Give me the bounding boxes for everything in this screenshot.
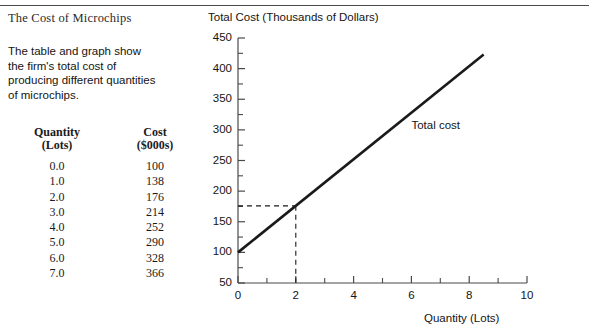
cell-cost: 214 — [106, 205, 204, 220]
table-header: Quantity (Lots) Cost ($000s) — [8, 126, 204, 159]
column-header-cost-line2: ($000s) — [106, 139, 204, 152]
table-header-spacer — [8, 152, 204, 159]
y-axis-tick-label: 450 — [198, 31, 232, 43]
y-axis-tick-label: 350 — [198, 92, 232, 104]
cell-cost: 100 — [106, 159, 204, 174]
y-axis-tick-label: 200 — [198, 184, 232, 196]
table-row: 6.0328 — [8, 251, 204, 266]
y-axis-tick-label: 100 — [198, 245, 232, 257]
cell-quantity: 4.0 — [8, 220, 106, 235]
cell-quantity: 2.0 — [8, 190, 106, 205]
series-line-total-cost — [238, 55, 484, 253]
column-header-quantity-line1: Quantity — [34, 125, 80, 139]
column-header-quantity-line2: (Lots) — [8, 139, 106, 152]
cell-quantity: 3.0 — [8, 205, 106, 220]
cell-quantity: 1.0 — [8, 174, 106, 189]
y-axis-tick-label: 250 — [198, 154, 232, 166]
cell-cost: 138 — [106, 174, 204, 189]
x-axis-tick-label: 4 — [342, 289, 366, 301]
panel-description: The table and graph show the firm's tota… — [8, 44, 158, 102]
y-axis-tick-label: 50 — [198, 276, 232, 288]
plot-svg — [200, 0, 589, 334]
table-row: 3.0214 — [8, 205, 204, 220]
table-row: 4.0252 — [8, 220, 204, 235]
cell-cost: 176 — [106, 190, 204, 205]
x-axis-tick-label: 0 — [226, 289, 250, 301]
cell-cost: 290 — [106, 235, 204, 250]
x-axis-tick-label: 10 — [515, 289, 539, 301]
cell-quantity: 7.0 — [8, 266, 106, 281]
spacer-cell-right — [106, 152, 204, 159]
table-row: 5.0290 — [8, 235, 204, 250]
cell-cost: 366 — [106, 266, 204, 281]
table-row: 7.0366 — [8, 266, 204, 281]
column-header-cost: Cost ($000s) — [106, 126, 204, 152]
column-header-quantity: Quantity (Lots) — [8, 126, 106, 152]
y-axis-tick-label: 300 — [198, 123, 232, 135]
table-row: 1.0138 — [8, 174, 204, 189]
figure-page: The Cost of Microchips The table and gra… — [0, 0, 589, 334]
y-axis-tick-label: 150 — [198, 215, 232, 227]
x-axis-tick-label: 6 — [399, 289, 423, 301]
table-body: 0.01001.01382.01763.02144.02525.02906.03… — [8, 159, 204, 281]
column-header-cost-line1: Cost — [143, 125, 166, 139]
table-row: 0.0100 — [8, 159, 204, 174]
cost-table: Quantity (Lots) Cost ($000s) 0.01001.013… — [8, 126, 204, 281]
cell-cost: 252 — [106, 220, 204, 235]
cell-cost: 328 — [106, 251, 204, 266]
x-axis-tick-label: 2 — [284, 289, 308, 301]
cell-quantity: 6.0 — [8, 251, 106, 266]
chart-area: Total Cost (Thousands of Dollars) Quanti… — [200, 0, 589, 334]
table-row: 2.0176 — [8, 190, 204, 205]
x-axis-tick-label: 8 — [457, 289, 481, 301]
cell-quantity: 5.0 — [8, 235, 106, 250]
y-axis-tick-label: 400 — [198, 62, 232, 74]
table-header-row: Quantity (Lots) Cost ($000s) — [8, 126, 204, 152]
spacer-cell-left — [8, 152, 106, 159]
cell-quantity: 0.0 — [8, 159, 106, 174]
panel-title: The Cost of Microchips — [8, 11, 208, 26]
